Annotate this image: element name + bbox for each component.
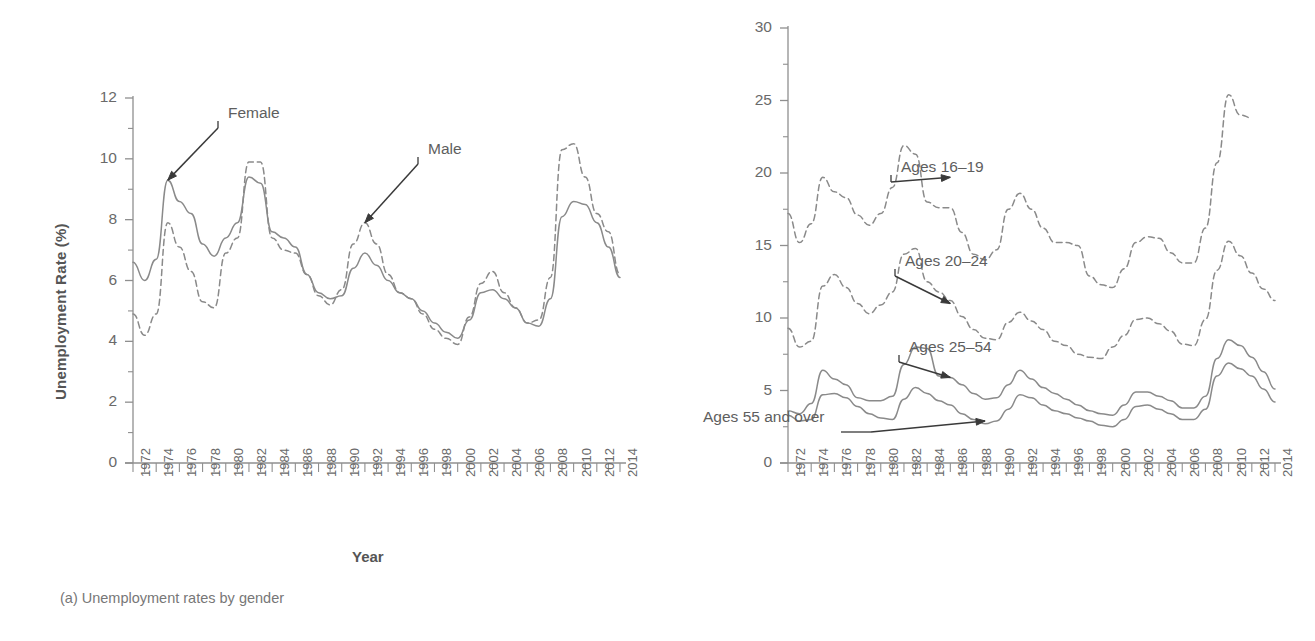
x-tick-label: 2004	[1164, 448, 1179, 477]
x-tick-label: 1974	[161, 448, 176, 477]
y-tick-label: 30	[738, 18, 772, 36]
figure-root: Unemployment Rate (%) Year (a) Unemploym…	[0, 0, 1315, 641]
panel-a-x-axis-label: Year	[352, 548, 384, 565]
y-tick-label: 12	[83, 88, 117, 106]
series-line-ages-25-54	[788, 340, 1275, 415]
x-tick-label: 2004	[509, 448, 524, 477]
x-tick-label: 2012	[1257, 448, 1272, 477]
x-tick-label: 1974	[816, 448, 831, 477]
annotation-arrow-head	[941, 372, 951, 379]
x-tick-label: 1996	[1071, 448, 1086, 477]
x-tick-label: 1984	[277, 448, 292, 477]
x-tick-label: 2002	[1141, 448, 1156, 477]
x-tick-label: 1992	[1025, 448, 1040, 477]
y-tick-label: 15	[738, 236, 772, 254]
x-tick-label: 2008	[555, 448, 570, 477]
panel-b-unemployment-women-by-age: Unemployment Rate (%) Year (b) Unemploym…	[655, 0, 1315, 641]
series-label-female: Female	[228, 104, 280, 122]
x-tick-label: 1972	[793, 448, 808, 477]
x-tick-label: 1984	[932, 448, 947, 477]
x-tick-label: 1998	[1094, 448, 1109, 477]
x-tick-label: 2008	[1210, 448, 1225, 477]
y-tick-label: 8	[83, 210, 117, 228]
x-tick-label: 2012	[602, 448, 617, 477]
series-label-ages-20-24: Ages 20–24	[905, 252, 988, 270]
series-label-ages-55-and-over: Ages 55 and over	[703, 408, 825, 426]
x-tick-label: 1982	[909, 448, 924, 477]
x-tick-label: 2014	[625, 448, 640, 477]
x-tick-label: 1976	[839, 448, 854, 477]
series-line-ages-16-19	[788, 95, 1252, 288]
y-tick-label: 20	[738, 163, 772, 181]
x-tick-label: 1976	[184, 448, 199, 477]
x-tick-label: 1990	[1002, 448, 1017, 477]
series-line-ages-20-24	[788, 241, 1275, 358]
x-tick-label: 1994	[1048, 448, 1063, 477]
x-tick-label: 2014	[1280, 448, 1295, 477]
x-tick-label: 1980	[231, 448, 246, 477]
x-tick-label: 2002	[486, 448, 501, 477]
x-tick-label: 2010	[1234, 448, 1249, 477]
x-tick-label: 1996	[416, 448, 431, 477]
series-label-ages-25-54: Ages 25–54	[909, 338, 992, 356]
x-tick-label: 2010	[579, 448, 594, 477]
y-tick-label: 6	[83, 271, 117, 289]
series-line-male	[133, 144, 620, 345]
x-tick-label: 2000	[1118, 448, 1133, 477]
x-tick-label: 1998	[439, 448, 454, 477]
x-tick-label: 1980	[886, 448, 901, 477]
x-tick-label: 1994	[393, 448, 408, 477]
y-tick-label: 4	[83, 331, 117, 349]
y-tick-label: 10	[83, 149, 117, 167]
y-tick-label: 10	[738, 308, 772, 326]
y-tick-label: 5	[738, 381, 772, 399]
x-tick-label: 1990	[347, 448, 362, 477]
x-tick-label: 1982	[254, 448, 269, 477]
panel-a-caption: (a) Unemployment rates by gender	[60, 590, 284, 606]
x-tick-label: 2000	[463, 448, 478, 477]
x-tick-label: 1988	[979, 448, 994, 477]
panel-a-y-axis-label: Unemployment Rate (%)	[52, 223, 69, 400]
y-tick-label: 0	[83, 453, 117, 471]
panel-a-unemployment-by-gender: Unemployment Rate (%) Year (a) Unemploym…	[0, 0, 660, 641]
series-line-ages-55-and-over	[788, 363, 1275, 427]
x-tick-label: 1972	[138, 448, 153, 477]
x-tick-label: 1978	[208, 448, 223, 477]
series-line-female	[133, 177, 620, 338]
x-tick-label: 1992	[370, 448, 385, 477]
x-tick-label: 1988	[324, 448, 339, 477]
x-tick-label: 1978	[863, 448, 878, 477]
annotation-arrow-shaft	[871, 421, 985, 432]
y-tick-label: 0	[738, 453, 772, 471]
x-tick-label: 2006	[1187, 448, 1202, 477]
annotation-arrow-shaft	[168, 128, 218, 180]
x-tick-label: 2006	[532, 448, 547, 477]
annotation-arrow-shaft	[365, 164, 418, 223]
y-tick-label: 25	[738, 91, 772, 109]
series-label-ages-16-19: Ages 16–19	[901, 158, 984, 176]
y-tick-label: 2	[83, 392, 117, 410]
x-tick-label: 1986	[955, 448, 970, 477]
series-label-male: Male	[428, 140, 462, 158]
x-tick-label: 1986	[300, 448, 315, 477]
